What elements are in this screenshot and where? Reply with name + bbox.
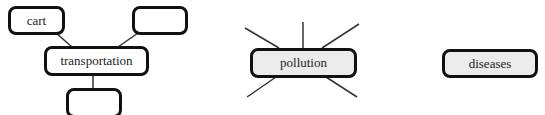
link-cart-transportation [56, 33, 72, 47]
spoke-top-left [245, 28, 279, 48]
spoke-bottom-right [326, 77, 357, 97]
node-cart: cart [8, 6, 65, 35]
node-pollution: pollution [250, 48, 357, 78]
link-empty-top-transportation [118, 33, 138, 47]
node-empty-top-right [132, 6, 188, 35]
node-transportation: transportation [44, 46, 149, 76]
spoke-top-right [322, 24, 359, 48]
node-diseases: diseases [442, 49, 538, 78]
node-empty-bottom [66, 88, 122, 115]
spoke-bottom-left [247, 77, 276, 97]
